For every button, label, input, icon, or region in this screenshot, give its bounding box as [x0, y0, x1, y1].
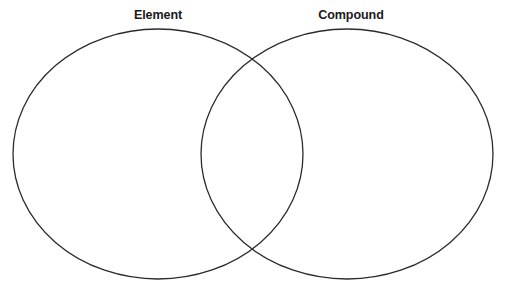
venn-diagram-shapes	[0, 0, 506, 291]
venn-diagram-canvas: Element Compound	[0, 0, 506, 291]
diagram-background	[0, 0, 506, 291]
venn-label-compound: Compound	[207, 8, 495, 22]
